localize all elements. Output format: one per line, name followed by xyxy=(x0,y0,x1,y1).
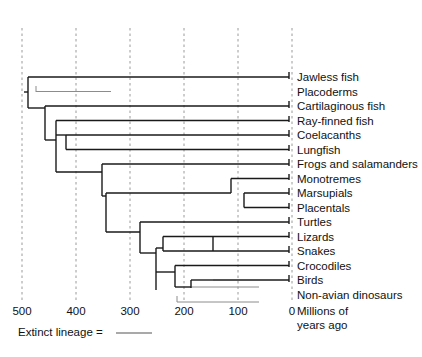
taxon-label-turtles: Turtles xyxy=(297,216,332,228)
taxon-label-frogs-and-salamanders: Frogs and salamanders xyxy=(297,158,418,170)
tree-branches xyxy=(24,77,289,290)
axis-caption-line2: years ago xyxy=(297,319,348,333)
taxon-label-non-avian-dinosaurs: Non-avian dinosaurs xyxy=(297,289,402,301)
taxon-label-snakes: Snakes xyxy=(297,245,335,257)
tick-label-400: 400 xyxy=(58,305,94,317)
phylogenetic-tree-figure: 500 400 300 200 100 0 Millions of years … xyxy=(0,0,422,357)
taxon-label-lizards: Lizards xyxy=(297,231,334,243)
taxon-label-cartilaginous-fish: Cartilaginous fish xyxy=(297,100,385,112)
taxon-label-coelacanths: Coelacanths xyxy=(297,129,361,141)
taxon-label-monotremes: Monotremes xyxy=(297,173,361,185)
gridlines xyxy=(22,28,292,302)
taxon-label-jawless-fish: Jawless fish xyxy=(297,71,359,83)
tick-label-300: 300 xyxy=(112,305,148,317)
tick-label-100: 100 xyxy=(220,305,256,317)
taxon-label-lungfish: Lungfish xyxy=(297,144,340,156)
taxon-label-marsupials: Marsupials xyxy=(297,187,353,199)
axis-caption-line1: Millions of xyxy=(297,305,348,319)
taxon-label-crocodiles: Crocodiles xyxy=(297,260,351,272)
taxon-label-placoderms: Placoderms xyxy=(297,86,358,98)
taxon-label-birds: Birds xyxy=(297,274,323,286)
tick-label-200: 200 xyxy=(166,305,202,317)
extinct-lineages xyxy=(36,86,259,302)
tick-label-500: 500 xyxy=(4,305,40,317)
legend-extinct-lineage-label: Extinct lineage = xyxy=(18,326,103,338)
taxon-label-ray-finned-fish: Ray-finned fish xyxy=(297,115,374,127)
taxon-label-placentals: Placentals xyxy=(297,202,350,214)
